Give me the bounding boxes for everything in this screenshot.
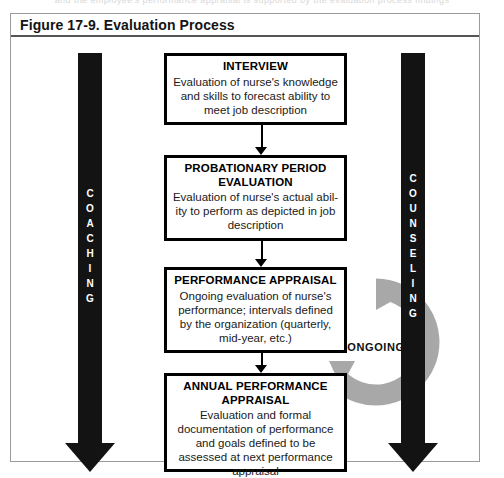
connector-arrow-down — [255, 353, 268, 373]
connector-arrow-head — [255, 365, 267, 373]
process-box-annual-performance-appraisal: ANNUAL PERFORMANCE APPRAISAL Evaluation … — [164, 373, 347, 472]
connector-arrow-head — [255, 147, 267, 155]
coaching-letter: A — [78, 216, 102, 231]
coaching-letter: C — [78, 231, 102, 246]
page-title: Figure 17-9. Evaluation Process — [20, 17, 235, 33]
process-box-body: Evaluation of nurse's knowledge and skil… — [172, 75, 339, 117]
counseling-letter: C — [401, 171, 425, 186]
process-box-body: Evaluation of nurse's actual abil-ity to… — [172, 190, 339, 232]
cut-off-running-header: and the employee's performance appraisal… — [0, 0, 504, 7]
diagram-canvas: ONGOING C O A C H I N G C O U — [11, 37, 479, 461]
process-box-body: Evaluation and formal documentation of p… — [172, 408, 339, 478]
process-box-interview: INTERVIEW Evaluation of nurse's knowledg… — [164, 53, 347, 125]
coaching-letter: H — [78, 246, 102, 261]
process-box-title: INTERVIEW — [172, 60, 339, 74]
counseling-letter: G — [401, 306, 425, 321]
connector-line — [261, 353, 263, 365]
counseling-arrow-label: C O U N S E L I N G — [401, 171, 425, 321]
process-box-body: Ongoing evaluation of nurse's performanc… — [172, 289, 339, 345]
coaching-letter: N — [78, 276, 102, 291]
coaching-letter: I — [78, 261, 102, 276]
connector-arrow-down — [255, 241, 268, 267]
process-box-performance-appraisal: PERFORMANCE APPRAISAL Ongoing evaluation… — [164, 267, 347, 353]
process-box-title: PROBATIONARY PERIOD EVALUATION — [172, 162, 339, 189]
counseling-letter: U — [401, 201, 425, 216]
connector-line — [261, 241, 263, 259]
connector-line — [261, 125, 263, 147]
process-box-probationary-period-evaluation: PROBATIONARY PERIOD EVALUATION Evaluatio… — [164, 155, 347, 241]
counseling-letter: I — [401, 276, 425, 291]
counseling-letter: E — [401, 246, 425, 261]
counseling-arrow-head — [388, 443, 438, 472]
figure-title-bar: Figure 17-9. Evaluation Process — [11, 14, 479, 37]
process-box-title: ANNUAL PERFORMANCE APPRAISAL — [172, 380, 339, 407]
coaching-arrow-label: C O A C H I N G — [78, 186, 102, 306]
figure-frame: Figure 17-9. Evaluation Process ONGOING … — [10, 13, 480, 462]
counseling-letter: N — [401, 291, 425, 306]
coaching-letter: O — [78, 201, 102, 216]
coaching-letter: G — [78, 291, 102, 306]
coaching-letter: C — [78, 186, 102, 201]
connector-arrow-head — [255, 259, 267, 267]
counseling-letter: S — [401, 231, 425, 246]
coaching-arrow-head — [65, 443, 115, 472]
counseling-letter: O — [401, 186, 425, 201]
counseling-letter: L — [401, 261, 425, 276]
connector-arrow-down — [255, 125, 268, 155]
counseling-letter: N — [401, 216, 425, 231]
process-box-title: PERFORMANCE APPRAISAL — [172, 274, 339, 288]
